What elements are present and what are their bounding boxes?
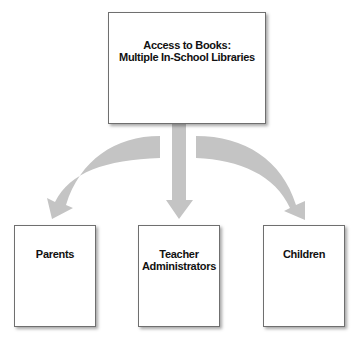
root-node-box: Access to Books: Multiple In-School Libr… <box>108 12 266 124</box>
child-node-label: Children <box>264 248 344 260</box>
child-node-teacher-administrators: Teacher Administrators <box>138 225 220 327</box>
root-node-label: Access to Books: Multiple In-School Libr… <box>109 39 265 63</box>
child-node-parents: Parents <box>14 225 96 327</box>
child-node-label: Teacher Administrators <box>139 248 219 272</box>
arrow-curved-right-icon <box>196 136 305 220</box>
arrow-down-icon <box>166 124 193 219</box>
child-node-label: Parents <box>15 248 95 260</box>
child-node-children: Children <box>263 225 345 327</box>
arrow-curved-left-icon <box>47 136 160 219</box>
